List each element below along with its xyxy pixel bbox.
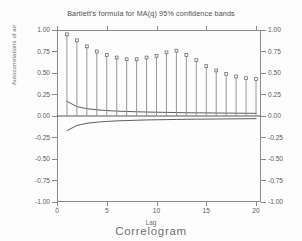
y-tick-label-right: 0.25 bbox=[268, 91, 301, 98]
y-tick-mark-right bbox=[261, 30, 266, 31]
y-tick-mark-left bbox=[52, 159, 57, 160]
y-tick-label-left: 0.00 bbox=[17, 112, 50, 119]
x-tick-label: 20 bbox=[246, 207, 266, 214]
y-tick-mark-right bbox=[261, 159, 266, 160]
y-tick-label-left: -0.50 bbox=[17, 155, 50, 162]
x-tick-mark-bottom bbox=[157, 202, 158, 206]
y-tick-label-right: 1.00 bbox=[268, 26, 301, 33]
x-tick-mark-top bbox=[256, 26, 257, 30]
y-axis-label: Autocorrelations of air bbox=[11, 0, 17, 125]
y-tick-label-left: 1.00 bbox=[17, 26, 50, 33]
y-tick-label-left: -0.75 bbox=[17, 177, 50, 184]
x-tick-mark-bottom bbox=[107, 202, 108, 206]
y-tick-label-right: -0.50 bbox=[268, 155, 301, 162]
y-tick-mark-left bbox=[52, 180, 57, 181]
y-tick-label-right: -1.00 bbox=[268, 198, 301, 205]
y-tick-label-right: 0.50 bbox=[268, 69, 301, 76]
y-tick-label-right: -0.25 bbox=[268, 134, 301, 141]
y-tick-label-left: 0.25 bbox=[17, 91, 50, 98]
y-tick-mark-right bbox=[261, 94, 266, 95]
y-tick-mark-left bbox=[52, 73, 57, 74]
x-tick-mark-top bbox=[57, 26, 58, 30]
y-tick-mark-left bbox=[52, 94, 57, 95]
x-tick-label: 10 bbox=[147, 207, 167, 214]
x-tick-label: 5 bbox=[97, 207, 117, 214]
y-tick-label-left: 0.75 bbox=[17, 48, 50, 55]
y-tick-mark-right bbox=[261, 116, 266, 117]
y-tick-mark-right bbox=[261, 137, 266, 138]
plot-frame bbox=[57, 30, 261, 202]
y-tick-mark-left bbox=[52, 116, 57, 117]
y-tick-label-left: 0.50 bbox=[17, 69, 50, 76]
y-tick-mark-right bbox=[261, 180, 266, 181]
y-tick-label-left: -0.25 bbox=[17, 134, 50, 141]
y-tick-label-left: -1.00 bbox=[17, 198, 50, 205]
correlogram-figure: Bartlett's formula for MA(q) 95% confide… bbox=[0, 0, 302, 241]
x-tick-mark-bottom bbox=[206, 202, 207, 206]
y-tick-label-right: 0.75 bbox=[268, 48, 301, 55]
y-tick-mark-right bbox=[261, 51, 266, 52]
x-tick-mark-bottom bbox=[57, 202, 58, 206]
y-tick-mark-right bbox=[261, 73, 266, 74]
x-tick-mark-bottom bbox=[256, 202, 257, 206]
y-tick-mark-left bbox=[52, 51, 57, 52]
x-tick-label: 15 bbox=[196, 207, 216, 214]
chart-caption: Correlogram bbox=[0, 225, 302, 237]
x-tick-mark-top bbox=[206, 26, 207, 30]
x-tick-mark-top bbox=[157, 26, 158, 30]
y-tick-mark-left bbox=[52, 137, 57, 138]
x-tick-mark-top bbox=[107, 26, 108, 30]
y-tick-mark-right bbox=[261, 202, 266, 203]
y-tick-label-right: -0.75 bbox=[268, 177, 301, 184]
x-tick-label: 0 bbox=[47, 207, 67, 214]
y-tick-label-right: 0.00 bbox=[268, 112, 301, 119]
chart-title: Bartlett's formula for MA(q) 95% confide… bbox=[0, 9, 302, 18]
